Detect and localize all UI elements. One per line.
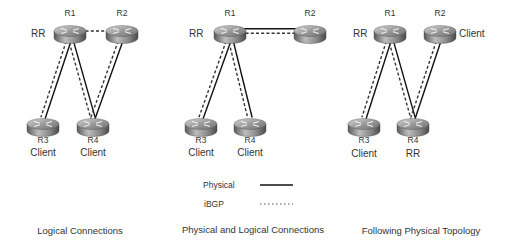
router-role-p3-r4: RR — [406, 148, 420, 159]
physical-link-p1-r1-r4 — [72, 36, 95, 117]
network-diagram — [0, 0, 512, 249]
ibgp-link-p3-r1-r4 — [388, 38, 411, 119]
router-icon-p3-r2 — [424, 26, 456, 44]
router-label-p2-r4: R4 — [245, 135, 256, 145]
router-label-p2-r3: R3 — [196, 135, 207, 145]
legend-ibgp-label: iBGP — [204, 199, 224, 209]
router-icon-p2-r1 — [214, 26, 246, 44]
physical-link-p3-r2-r4 — [415, 38, 442, 119]
ibgp-link-p3-r1-r3 — [362, 36, 388, 117]
router-icon-p1-r4 — [77, 119, 109, 137]
router-role-p2-r1: RR — [189, 28, 203, 39]
router-label-p3-r1: R1 — [385, 8, 396, 18]
physical-link-p3-r1-r4 — [392, 36, 415, 117]
router-role-p3-r3: Client — [351, 148, 377, 159]
panel-caption-logical: Logical Connections — [37, 225, 123, 236]
physical-link-p1-r1-r3 — [45, 38, 72, 119]
router-label-p1-r3: R3 — [38, 135, 49, 145]
ibgp-link-p1-r1-r4 — [68, 38, 91, 119]
panel-caption-physical-logical: Physical and Logical Connections — [182, 224, 324, 235]
router-icon-p1-r1 — [54, 26, 86, 44]
physical-link-p1-r2-r4 — [95, 38, 124, 119]
router-icon-p3-r4 — [397, 119, 429, 137]
router-label-p3-r4: R4 — [408, 135, 419, 145]
ibgp-link-p1-r1-r3 — [41, 36, 68, 117]
legend-physical-label: Physical — [203, 180, 235, 190]
router-label-p1-r1: R1 — [65, 8, 76, 18]
router-role-p2-r3: Client — [188, 147, 214, 158]
router-icon-p3-r1 — [374, 26, 406, 44]
router-role-p2-r4: Client — [237, 147, 263, 158]
router-icon-p3-r3 — [348, 119, 380, 137]
router-role-p3-r1: RR — [353, 28, 367, 39]
router-role-p1-r1: RR — [31, 28, 45, 39]
router-label-p2-r2: R2 — [305, 8, 316, 18]
router-icon-p2-r2 — [294, 26, 326, 44]
router-icon-p1-r2 — [106, 26, 138, 44]
physical-link-p3-r1-r3 — [366, 38, 392, 119]
panel-caption-following-physical: Following Physical Topology — [362, 225, 481, 236]
physical-link-p2-r1-r3 — [203, 38, 232, 119]
router-role-p1-r4: Client — [80, 147, 106, 158]
router-icon-p2-r3 — [185, 119, 217, 137]
router-label-p1-r2: R2 — [117, 8, 128, 18]
router-label-p3-r2: R2 — [435, 8, 446, 18]
physical-link-p2-r1-r4 — [232, 36, 252, 117]
ibgp-link-p2-r1-r4 — [228, 38, 248, 119]
router-role-p3-r2: Client — [459, 28, 485, 39]
ibgp-link-p1-r2-r4 — [91, 36, 120, 117]
router-icon-p1-r3 — [27, 119, 59, 137]
router-icon-p2-r4 — [234, 119, 266, 137]
router-label-p2-r1: R1 — [225, 8, 236, 18]
ibgp-link-p3-r2-r4 — [411, 36, 438, 117]
router-label-p3-r3: R3 — [359, 135, 370, 145]
router-label-p1-r4: R4 — [88, 135, 99, 145]
router-role-p1-r3: Client — [30, 147, 56, 158]
ibgp-link-p2-r1-r3 — [199, 36, 228, 117]
